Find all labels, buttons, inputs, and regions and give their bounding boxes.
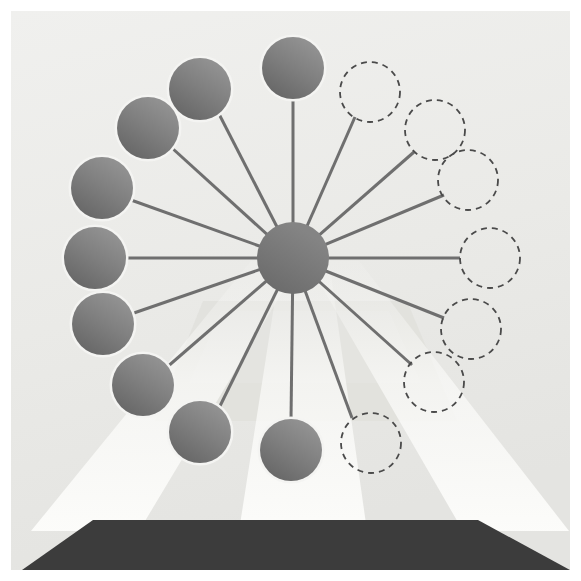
cabin-occupied[interactable] — [169, 58, 231, 120]
wheel-hub[interactable] — [257, 222, 329, 294]
cabin-occupied[interactable] — [64, 227, 126, 289]
ferris-wheel-scene — [11, 11, 570, 570]
cabin-occupied[interactable] — [262, 37, 324, 99]
figure-canvas — [0, 0, 581, 581]
cabin-occupied[interactable] — [169, 401, 231, 463]
cabin-occupied[interactable] — [72, 293, 134, 355]
cabin-occupied[interactable] — [112, 354, 174, 416]
cabin-occupied[interactable] — [71, 157, 133, 219]
cabin-occupied[interactable] — [260, 419, 322, 481]
figure-panel — [11, 11, 570, 570]
cabin-occupied[interactable] — [117, 97, 179, 159]
base-platform — [22, 520, 570, 570]
